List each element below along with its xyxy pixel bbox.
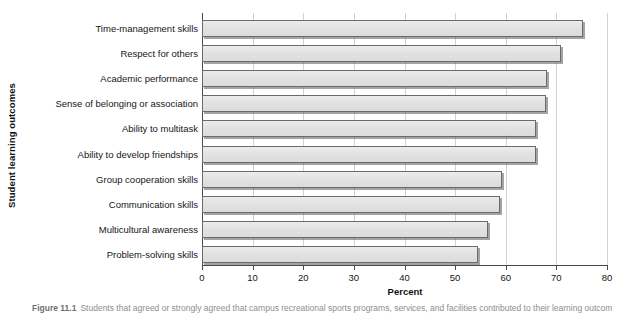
bar-row	[202, 221, 607, 238]
x-tick-label: 60	[486, 272, 526, 283]
bar[interactable]	[202, 95, 546, 112]
bar-row	[202, 95, 607, 112]
category-label: Academic performance	[23, 73, 198, 84]
x-tick	[506, 265, 507, 270]
category-label: Group cooperation skills	[23, 174, 198, 185]
x-tick-label: 80	[587, 272, 626, 283]
figure-caption-number: Figure 11.1	[32, 303, 76, 313]
category-label-group: Time-management skillsRespect for others…	[22, 13, 198, 265]
x-tick	[354, 265, 355, 270]
bar[interactable]	[202, 20, 583, 37]
x-tick-label: 30	[334, 272, 374, 283]
bar[interactable]	[202, 146, 536, 163]
bar[interactable]	[202, 70, 547, 87]
bar-row	[202, 120, 607, 137]
bar-row	[202, 171, 607, 188]
bar[interactable]	[202, 246, 478, 263]
x-tick	[455, 265, 456, 270]
category-label: Respect for others	[23, 48, 198, 59]
x-tick-label: 0	[182, 272, 222, 283]
category-label: Ability to develop friendships	[23, 149, 198, 160]
bar[interactable]	[202, 196, 500, 213]
bar-row	[202, 196, 607, 213]
category-label: Problem-solving skills	[23, 249, 198, 260]
x-axis-title: Percent	[202, 286, 608, 297]
x-tick	[202, 265, 203, 270]
figure-caption: Figure 11.1Students that agreed or stron…	[32, 303, 612, 314]
plot-area	[202, 13, 607, 265]
category-label: Multicultural awareness	[23, 224, 198, 235]
x-tick	[607, 265, 608, 270]
y-axis-title: Student learning outcomes	[0, 0, 22, 290]
category-label: Communication skills	[23, 199, 198, 210]
x-tick-label: 10	[233, 272, 273, 283]
x-tick-label: 40	[385, 272, 425, 283]
x-tick-label: 70	[536, 272, 576, 283]
y-axis-title-label: Student learning outcomes	[6, 83, 17, 208]
x-tick	[303, 265, 304, 270]
x-tick	[405, 265, 406, 270]
category-label: Ability to multitask	[23, 123, 198, 134]
bar-row	[202, 45, 607, 62]
bar-row	[202, 146, 607, 163]
x-tick-label: 20	[283, 272, 323, 283]
category-label: Time-management skills	[23, 23, 198, 34]
x-tick	[556, 265, 557, 270]
bar-row	[202, 20, 607, 37]
category-label: Sense of belonging or association	[23, 98, 198, 109]
bar[interactable]	[202, 120, 536, 137]
bar-row	[202, 246, 607, 263]
x-tick	[253, 265, 254, 270]
figure-caption-text: Students that agreed or strongly agreed …	[80, 303, 612, 313]
gridline-80	[607, 13, 608, 265]
bar[interactable]	[202, 171, 502, 188]
figure-container: Student learning outcomes Time-managemen…	[0, 0, 626, 314]
bar[interactable]	[202, 221, 488, 238]
bar-row	[202, 70, 607, 87]
x-tick-label: 50	[435, 272, 475, 283]
bar[interactable]	[202, 45, 561, 62]
